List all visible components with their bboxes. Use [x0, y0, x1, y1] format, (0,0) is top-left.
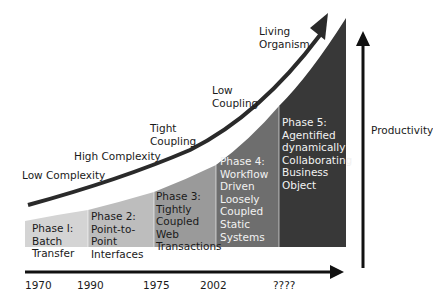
phase-2-label: Phase 2: Point-to- Point Interfaces: [91, 210, 143, 260]
phase-line: Object: [282, 179, 352, 192]
phase-line: Batch: [32, 235, 74, 248]
year-label: 1990: [77, 279, 104, 291]
timeline-arrowhead-icon: [330, 265, 344, 279]
phase-line: Web: [156, 228, 222, 241]
label-living-organism: Living Organism: [259, 25, 310, 50]
year-label: 1975: [143, 279, 170, 291]
phase-5-label: Phase 5: Agentified dynamically Collabor…: [282, 116, 352, 192]
phase-line: Phase 3:: [156, 190, 222, 203]
label-low-complexity: Low Complexity: [22, 169, 105, 182]
phase-line: Driven: [220, 180, 268, 193]
phase-3-label: Phase 3: Tightly Coupled Web Transaction…: [156, 190, 222, 253]
label-line: Coupling: [212, 97, 258, 110]
year-label: 1970: [25, 279, 52, 291]
phase-line: dynamically: [282, 141, 352, 154]
label-tight-coupling: Tight Coupling: [150, 122, 196, 147]
phase-1-label: Phase I: Batch Transfer: [32, 222, 74, 260]
phase-line: Phase 2:: [91, 210, 143, 223]
label-line: Low: [212, 84, 258, 97]
phase-line: Static: [220, 218, 268, 231]
phase-line: Point-to-: [91, 223, 143, 236]
phase-line: Tightly: [156, 203, 222, 216]
label-low-coupling: Low Coupling: [212, 84, 258, 109]
label-line: Tight: [150, 122, 196, 135]
label-line: Organism: [259, 38, 310, 51]
phase-line: Phase 4:: [220, 155, 268, 168]
phase-line: Transfer: [32, 247, 74, 260]
phase-line: Point: [91, 235, 143, 248]
productivity-label: Productivity: [371, 124, 433, 137]
phase-line: Systems: [220, 231, 268, 244]
phase-line: Coupled: [156, 215, 222, 228]
productivity-arrowhead-icon: [356, 31, 370, 46]
phase-line: Interfaces: [91, 248, 143, 261]
year-label: 2002: [200, 279, 227, 291]
label-line: Living: [259, 25, 310, 38]
phase-line: Phase 5:: [282, 116, 352, 129]
phase-line: Loosely: [220, 193, 268, 206]
phase-line: Phase I:: [32, 222, 74, 235]
phase-line: Transactions: [156, 240, 222, 253]
phase-line: Agentified: [282, 129, 352, 142]
label-high-complexity: High Complexity: [74, 150, 161, 163]
phase-line: Business: [282, 166, 352, 179]
phase-line: Collaborating: [282, 154, 352, 167]
phase-4-label: Phase 4: Workflow Driven Loosely Coupled…: [220, 155, 268, 243]
phase-line: Coupled: [220, 205, 268, 218]
label-line: Coupling: [150, 135, 196, 148]
phase-line: Workflow: [220, 168, 268, 181]
year-label: ????: [273, 279, 295, 291]
